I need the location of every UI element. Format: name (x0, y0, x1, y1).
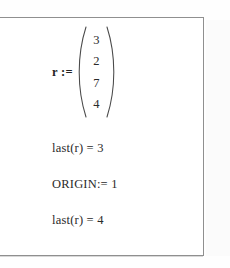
vector-value: 3 (93, 34, 99, 47)
vector-value: 7 (93, 77, 99, 90)
variable-assignment-label: r := (52, 65, 73, 80)
statement-last-r-equals-3: last(r) = 3 (52, 141, 192, 156)
scanned-page: r := 3 2 7 4 (0, 0, 230, 268)
vector-assignment: r := 3 2 7 4 (52, 24, 192, 120)
right-paren-icon (106, 26, 115, 118)
statement-last-r-equals-4: last(r) = 4 (52, 213, 192, 228)
scan-artifact-right (206, 20, 230, 256)
statement-origin-assignment: ORIGIN:= 1 (52, 177, 192, 192)
column-vector: 3 2 7 4 (78, 26, 115, 118)
left-paren-icon (78, 26, 87, 118)
math-content-column: r := 3 2 7 4 (52, 24, 192, 228)
vector-value: 2 (93, 55, 99, 68)
vector-value: 4 (93, 98, 99, 111)
vector-values: 3 2 7 4 (87, 26, 106, 118)
